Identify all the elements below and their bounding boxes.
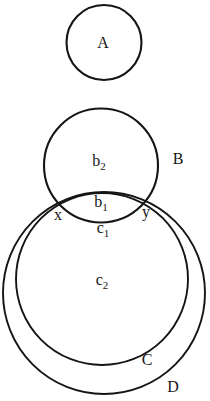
label-base-glyph: D [167, 378, 179, 395]
label-base-glyph: b [94, 193, 102, 210]
label-subscript-glyph: 1 [104, 227, 110, 239]
label-base-glyph: c [96, 271, 103, 288]
euler-diagram: Ab2Bb1xyc1c2CD [0, 0, 210, 401]
scanned-figure-page: Ab2Bb1xyc1c2CD [0, 0, 210, 401]
set-label-C: C [142, 351, 153, 368]
label-subscript-glyph: 2 [100, 160, 106, 172]
set-label-b1: b1 [94, 193, 108, 213]
set-label-x: x [54, 206, 62, 223]
set-label-A: A [97, 34, 109, 51]
label-subscript-glyph: 1 [102, 201, 108, 213]
set-label-B: B [173, 150, 184, 167]
set-label-y: y [142, 203, 150, 221]
label-base-glyph: C [142, 351, 153, 368]
label-subscript-glyph: 2 [103, 279, 109, 291]
label-base-glyph: A [97, 34, 109, 51]
label-base-glyph: b [92, 152, 100, 169]
set-label-c2: c2 [96, 271, 109, 291]
label-base-glyph: B [173, 150, 184, 167]
label-base-glyph: x [54, 206, 62, 223]
label-base-glyph: y [142, 203, 150, 221]
set-label-D: D [167, 378, 179, 395]
label-base-glyph: c [97, 219, 104, 236]
set-label-b2: b2 [92, 152, 106, 172]
